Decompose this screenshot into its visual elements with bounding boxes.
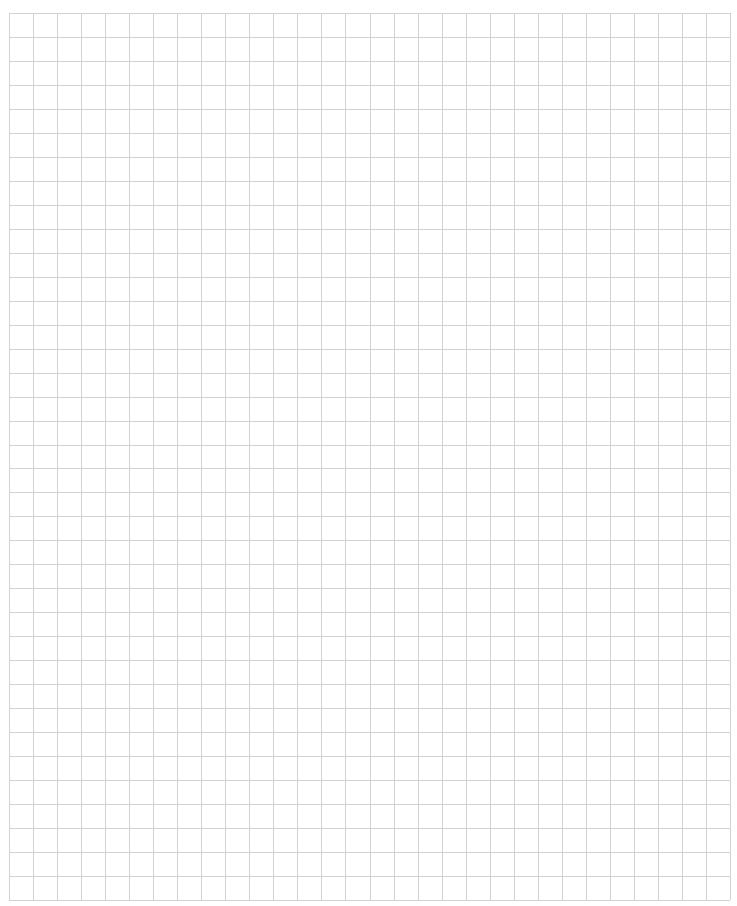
graph-paper-grid [9,13,730,900]
grid-lines [9,13,730,900]
